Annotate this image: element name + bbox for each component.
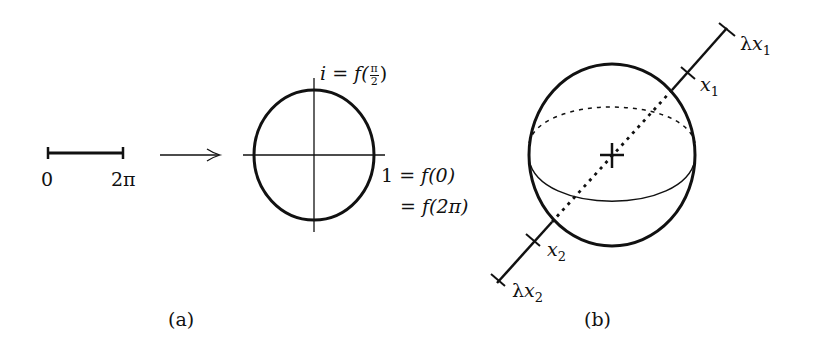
label-lambda-x2: λx2 [512,281,543,304]
label-1-equals-f-0: 1 = f(0) [381,166,455,185]
caption-a: (a) [168,310,194,329]
unit-circle [243,78,385,232]
interval-start-label: 0 [41,170,53,189]
label-i-equals-f-pi-over-2: i = f(π2) [320,63,387,87]
interval-segment [47,147,123,159]
label-lambda-x1: λx1 [740,34,771,57]
right-arrow-icon [160,149,220,161]
caption-b: (b) [584,310,611,329]
label-x1: x1 [700,75,719,98]
label-x2: x2 [547,240,566,263]
interval-end-label: 2π [111,170,136,189]
label-equals-f-2pi: = f(2π) [400,197,468,216]
figure: 0 2π i = f(π2) 1 = f(0) = f(2π) (a) λx1 … [0,0,813,347]
fraction: π2 [370,63,379,87]
